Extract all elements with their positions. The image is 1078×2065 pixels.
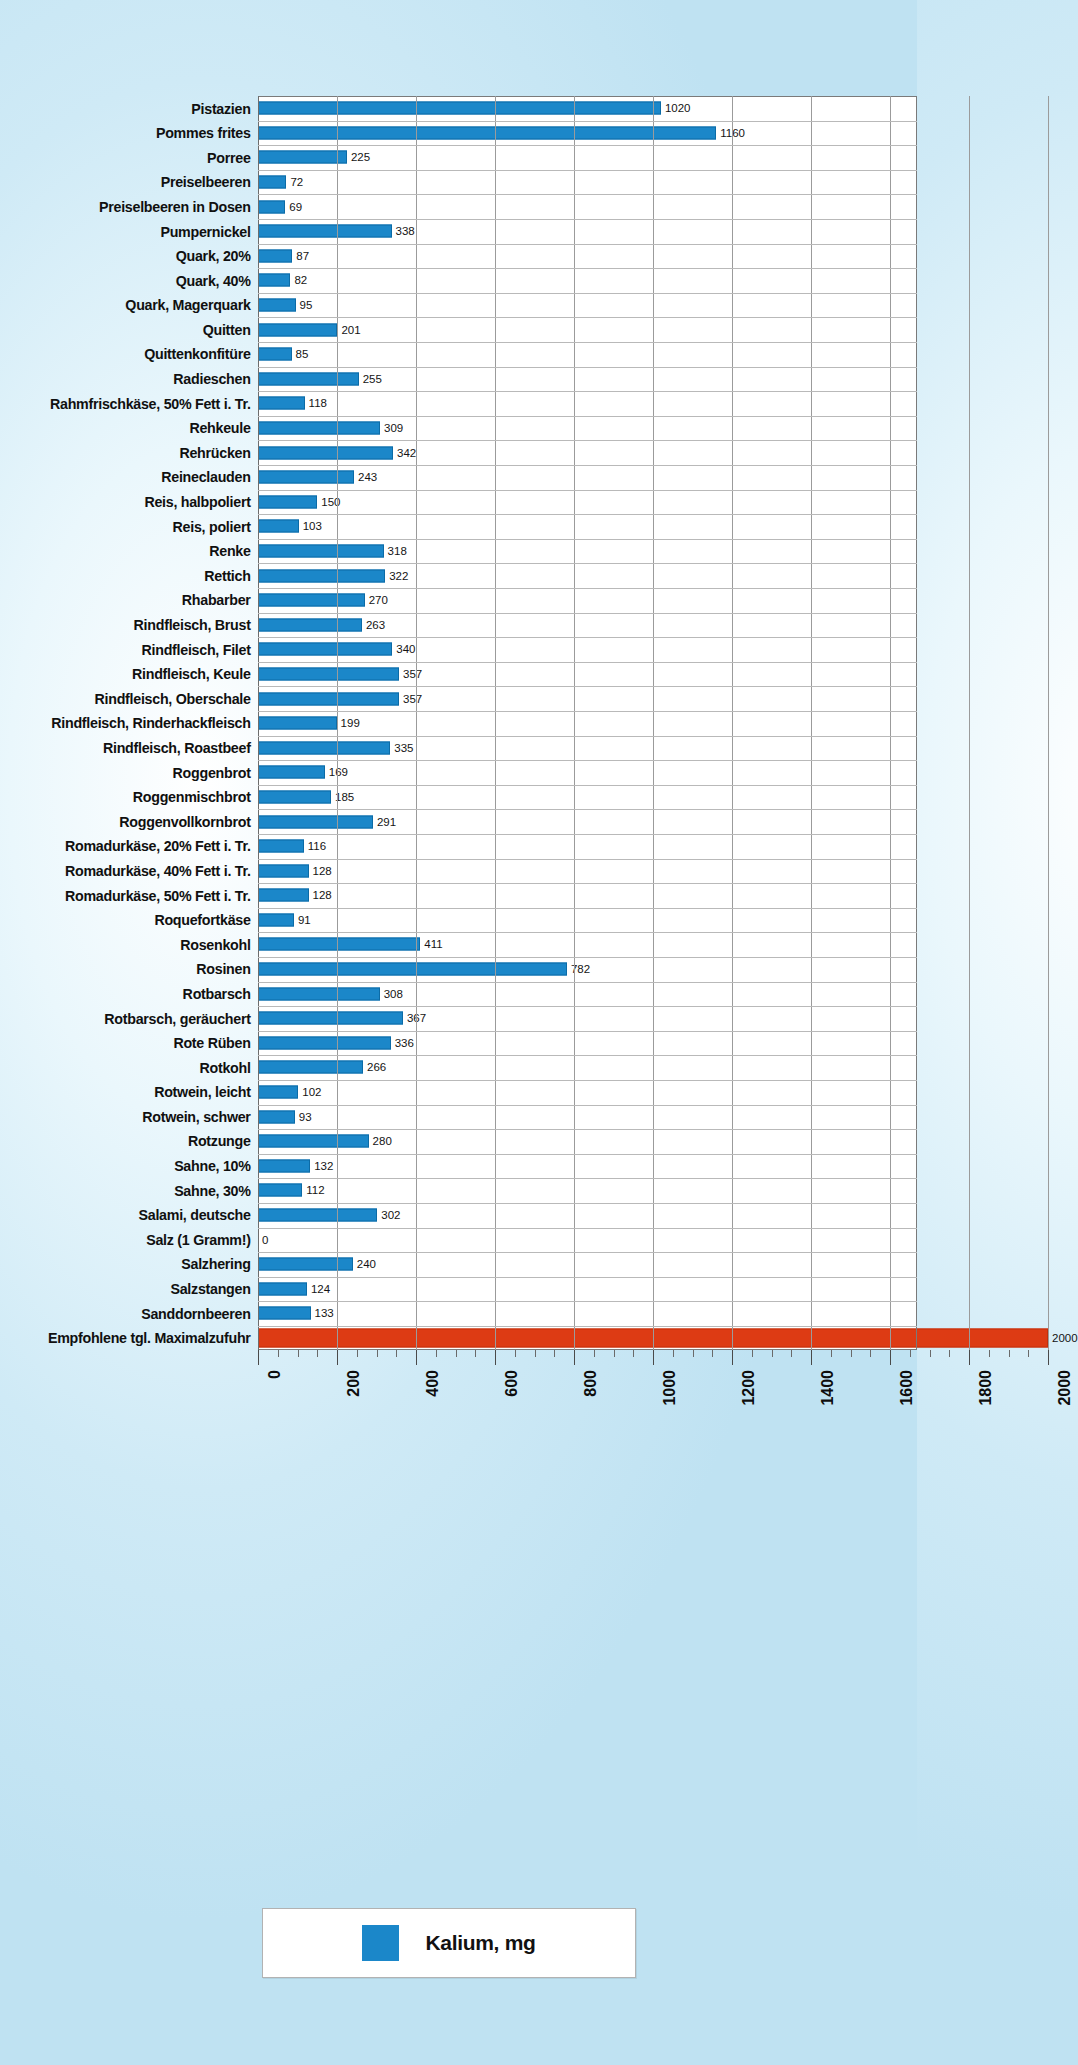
category-label: Quark, 20% <box>21 248 258 264</box>
category-label: Rindfleisch, Brust <box>21 617 258 633</box>
bar-track: 102 <box>258 1080 917 1105</box>
tick-label: 200 <box>345 1370 363 1397</box>
value-label: 124 <box>307 1283 330 1295</box>
category-label: Radieschen <box>21 371 258 387</box>
value-bar <box>258 1135 369 1148</box>
bar-row: Pistazien1020 <box>0 96 917 121</box>
bar-rows: Pistazien1020Pommes frites1160Porree225P… <box>0 96 917 1350</box>
bar-row: Quittenkonfitüre85 <box>0 342 917 367</box>
value-label: 280 <box>369 1135 392 1147</box>
tick-minor <box>396 1350 397 1357</box>
value-bar <box>258 151 347 164</box>
category-label: Rotwein, leicht <box>21 1084 258 1100</box>
category-label: Roggenmischbrot <box>21 789 258 805</box>
value-label: 199 <box>337 717 360 729</box>
tick-minor <box>317 1350 318 1357</box>
value-bar <box>258 1110 295 1123</box>
category-label: Quittenkonfitüre <box>21 346 258 362</box>
category-label: Preiselbeeren <box>21 174 258 190</box>
category-label: Quark, 40% <box>21 273 258 289</box>
value-bar <box>258 864 309 877</box>
value-bar <box>258 692 399 705</box>
reference-bar <box>258 1328 1048 1347</box>
value-bar <box>258 1184 302 1197</box>
bar-track: 357 <box>258 686 917 711</box>
value-bar <box>258 422 380 435</box>
tick-major <box>416 1350 417 1365</box>
value-label: 367 <box>403 1012 426 1024</box>
value-bar <box>258 225 392 238</box>
category-label: Rindfleisch, Keule <box>21 666 258 682</box>
value-bar <box>258 520 299 533</box>
tick-minor <box>298 1350 299 1357</box>
value-bar <box>258 1307 311 1320</box>
value-label: 185 <box>331 791 354 803</box>
category-label: Rehrücken <box>21 445 258 461</box>
bar-track: 132 <box>258 1154 917 1179</box>
bar-row: Rotbarsch308 <box>0 981 917 1006</box>
value-label: 128 <box>309 865 332 877</box>
tick-label: 0 <box>266 1370 284 1379</box>
category-label: Rindfleisch, Oberschale <box>21 691 258 707</box>
tick-label: 1400 <box>819 1370 837 1406</box>
bar-row: Rosinen782 <box>0 957 917 982</box>
value-bar <box>258 372 359 385</box>
value-bar <box>258 815 373 828</box>
category-label: Rindfleisch, Rinderhackfleisch <box>21 715 258 731</box>
category-label: Rhabarber <box>21 592 258 608</box>
tick-minor <box>515 1350 516 1357</box>
tick-label: 600 <box>503 1370 521 1397</box>
category-label: Pommes frites <box>21 125 258 141</box>
category-label: Romadurkäse, 20% Fett i. Tr. <box>21 838 258 854</box>
bar-row: Reis, poliert103 <box>0 514 917 539</box>
tick-minor <box>1009 1350 1010 1357</box>
bar-row: Quark, 40%82 <box>0 268 917 293</box>
bar-track: 150 <box>258 490 917 515</box>
bar-track: 782 <box>258 957 917 982</box>
category-label: Rotkohl <box>21 1060 258 1076</box>
tick-minor <box>1028 1350 1029 1357</box>
bar-track: 411 <box>258 932 917 957</box>
value-label: 342 <box>393 447 416 459</box>
category-label: Romadurkäse, 40% Fett i. Tr. <box>21 863 258 879</box>
tick-major <box>890 1350 891 1365</box>
category-label: Rehkeule <box>21 420 258 436</box>
bar-row: Quitten201 <box>0 317 917 342</box>
value-label: 270 <box>365 594 388 606</box>
category-label: Roggenbrot <box>21 765 258 781</box>
bar-track: 133 <box>258 1301 917 1326</box>
value-bar <box>258 1061 363 1074</box>
value-bar <box>258 176 286 189</box>
bar-track: 2000 <box>258 1326 917 1351</box>
category-label: Rosenkohl <box>21 937 258 953</box>
value-label: 357 <box>399 693 422 705</box>
bar-row: Rettich322 <box>0 563 917 588</box>
bar-track: 91 <box>258 908 917 933</box>
bar-row: Rindfleisch, Oberschale357 <box>0 686 917 711</box>
bar-row: Rindfleisch, Keule357 <box>0 662 917 687</box>
bar-row: Quark, 20%87 <box>0 244 917 269</box>
tick-minor <box>870 1350 871 1357</box>
tick-major <box>574 1350 575 1365</box>
bar-row: Roggenvollkornbrot291 <box>0 809 917 834</box>
bar-track: 342 <box>258 440 917 465</box>
category-label: Salami, deutsche <box>21 1207 258 1223</box>
tick-minor <box>693 1350 694 1357</box>
bar-row: Rotkohl266 <box>0 1055 917 1080</box>
tick-minor <box>436 1350 437 1357</box>
value-label: 103 <box>299 520 322 532</box>
bar-track: 308 <box>258 981 917 1006</box>
category-label: Roggenvollkornbrot <box>21 814 258 830</box>
bar-track: 255 <box>258 367 917 392</box>
value-bar <box>258 274 290 287</box>
bar-row: Rotzunge280 <box>0 1129 917 1154</box>
value-bar <box>258 446 393 459</box>
bar-row: Rindfleisch, Brust263 <box>0 612 917 637</box>
category-label: Rahmfrischkäse, 50% Fett i. Tr. <box>21 396 258 412</box>
tick-minor <box>594 1350 595 1357</box>
tick-label: 1200 <box>740 1370 758 1406</box>
bar-track: 118 <box>258 391 917 416</box>
value-bar <box>258 938 420 951</box>
tick-minor <box>930 1350 931 1357</box>
bar-row: Romadurkäse, 20% Fett i. Tr.116 <box>0 834 917 859</box>
